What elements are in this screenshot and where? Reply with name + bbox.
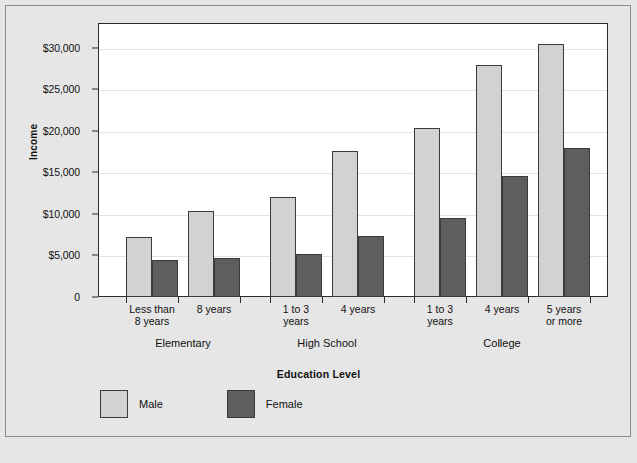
x-axis-category-label: Less than 8 years: [129, 303, 175, 327]
x-axis-tick-mark: [178, 297, 179, 303]
y-axis-tick-label: $30,000: [43, 42, 80, 54]
x-axis-group-label: High School: [297, 337, 356, 349]
bar-male: [476, 65, 502, 297]
x-axis-category-label: 8 years: [197, 303, 231, 315]
bar-female: [152, 260, 178, 297]
bar-female: [502, 176, 528, 297]
x-axis-group-label: College: [483, 337, 520, 349]
x-axis-tick-mark: [240, 297, 241, 303]
y-axis-tick-label: $15,000: [43, 166, 80, 178]
bar-male: [332, 151, 358, 297]
x-axis-category-label: 5 years or more: [546, 303, 582, 327]
legend-swatch: [227, 390, 255, 418]
legend-label: Male: [139, 398, 163, 410]
page-background: Income 0$5,000$10,000$15,000$20,000$25,0…: [0, 0, 637, 463]
x-axis-tick-mark: [126, 297, 127, 303]
y-axis-tick-label: $10,000: [43, 208, 80, 220]
legend-item: Female: [227, 390, 303, 418]
x-axis-tick-mark: [590, 297, 591, 303]
bar-female: [214, 258, 240, 297]
legend-swatch: [100, 390, 128, 418]
x-axis-title: Education Level: [0, 368, 637, 380]
legend-label: Female: [266, 398, 303, 410]
x-axis-tick-mark: [322, 297, 323, 303]
y-axis: 0$5,000$10,000$15,000$20,000$25,000$30,0…: [0, 23, 92, 297]
x-axis-category-label: 4 years: [485, 303, 519, 315]
x-axis-category-label: 1 to 3 years: [427, 303, 453, 327]
bar-male: [126, 237, 152, 297]
bar-male: [538, 44, 564, 297]
x-axis-tick-mark: [270, 297, 271, 303]
x-axis-category-label: 1 to 3 years: [283, 303, 309, 327]
bar-male: [270, 197, 296, 297]
legend-item: Male: [100, 390, 163, 418]
y-axis-tick-label: $25,000: [43, 83, 80, 95]
bar-female: [440, 218, 466, 297]
bar-female: [296, 254, 322, 297]
bar-female: [564, 148, 590, 297]
y-axis-tick-label: $20,000: [43, 125, 80, 137]
bar-female: [358, 236, 384, 297]
x-axis-category-label: 4 years: [341, 303, 375, 315]
y-axis-tick-label: 0: [74, 291, 80, 303]
x-axis-group-label: Elementary: [155, 337, 211, 349]
x-axis-tick-mark: [414, 297, 415, 303]
x-axis-tick-mark: [384, 297, 385, 303]
x-axis-tick-mark: [528, 297, 529, 303]
bar-male: [188, 211, 214, 297]
x-axis-tick-mark: [466, 297, 467, 303]
bars-layer: [98, 23, 608, 297]
y-axis-tick-label: $5,000: [48, 249, 80, 261]
chart-legend: MaleFemale: [100, 390, 303, 418]
bar-male: [414, 128, 440, 297]
